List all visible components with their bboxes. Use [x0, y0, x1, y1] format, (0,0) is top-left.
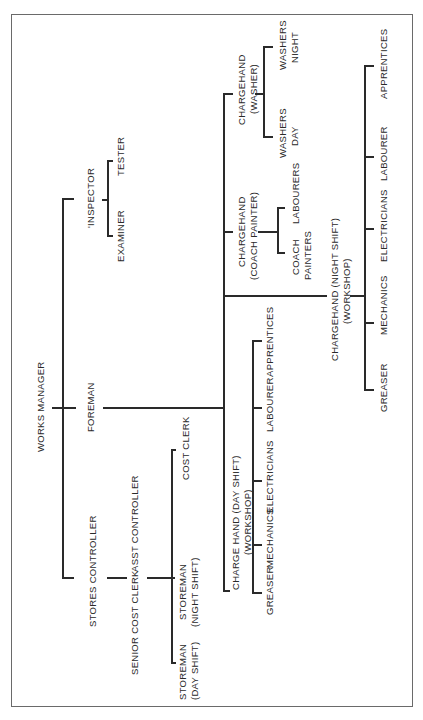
connector-line [252, 340, 262, 342]
connector-line [62, 198, 74, 200]
storeman-day-label: STOREMAN [177, 644, 188, 700]
connector-line [107, 160, 109, 236]
connector-line [263, 46, 273, 48]
connector-line [171, 662, 176, 664]
day-apprentices-label: APPRENTICES [264, 307, 275, 377]
day-greaser-label: GREASER [264, 566, 275, 615]
connector-line [350, 295, 365, 297]
connector-line [258, 231, 278, 233]
connector-line [223, 231, 233, 233]
tester-label: TESTER [115, 137, 126, 176]
connector-line [107, 235, 113, 237]
storeman-night-shift-label: (NIGHT SHIFT) [189, 557, 200, 627]
connector-line [364, 228, 374, 230]
day-mechanics-label: MECHANICS [264, 508, 275, 568]
coach-painters-label: COACH [290, 239, 301, 275]
connector-line [103, 407, 224, 409]
connector-line [277, 252, 285, 254]
chargehand-washer-label: CHARGEHAND [236, 54, 247, 125]
connector-line [52, 407, 76, 409]
connector-line [223, 93, 233, 95]
cost-clerk-label: COST CLERK [180, 416, 191, 480]
connector-line [263, 136, 273, 138]
washers-day-label: WASHERS [277, 108, 288, 158]
connector-line [107, 577, 127, 579]
chargehand-night-workshop-label: (WORKSHOP) [341, 258, 352, 324]
connector-line [252, 340, 254, 593]
connector-line [364, 322, 374, 324]
washers-day-2-label: DAY [289, 126, 300, 146]
night-mechanics-label: MECHANICS [378, 275, 389, 335]
examiner-label: EXAMINER [115, 210, 126, 262]
works-manager-label: WORKS MANAGER [35, 362, 46, 452]
storeman-day-shift-label: (DAY SHIFT) [189, 642, 200, 700]
day-labourer-label: LABOURER [264, 377, 275, 432]
night-labourer-label: LABOURER [378, 126, 389, 181]
foreman-label: FOREMAN [85, 382, 96, 432]
asst-controller-label: ASST CONTROLLER [129, 475, 140, 572]
connector-line [364, 65, 374, 67]
connector-line [252, 407, 262, 409]
night-greaser-label: GREASER [378, 363, 389, 412]
chargehand-day-workshop-label: (WORKSHOP) [242, 489, 253, 555]
coach-painters-2-label: PAINTERS [302, 231, 313, 280]
chargehand-coach-painter-label: (COACH PAINTER) [248, 192, 259, 280]
connector-line [223, 93, 225, 591]
night-apprentices-label: APPRENTICES [378, 29, 389, 99]
stores-controller-label: STORES CONTROLLER [87, 515, 98, 627]
senior-cost-clerk-label: SENIOR COST CLERK [129, 570, 140, 675]
inspector-label: 'INSPECTOR [85, 168, 96, 228]
connector-line [252, 544, 262, 546]
washers-night-2-label: NIGHT [289, 32, 300, 63]
chargehand-night-label: CHARGEHAND (NIGHT SHIFT) [329, 218, 340, 361]
connector-line [223, 295, 327, 297]
connector-line [277, 207, 285, 209]
connector-line [263, 46, 265, 137]
storeman-night-label: STOREMAN [177, 564, 188, 620]
chargehand-washer-2-label: (WASHER) [248, 64, 259, 114]
coach-labourers-label: LABOURERS [290, 163, 301, 224]
chargehand-coach-label: CHARGEHAND [236, 196, 247, 267]
connector-line [107, 160, 113, 162]
connector-line [171, 449, 173, 663]
connector-line [223, 590, 230, 592]
connector-line [252, 480, 262, 482]
connector-line [252, 592, 262, 594]
connector-line [364, 389, 374, 391]
connector-line [62, 198, 64, 578]
washers-night-label: WASHERS [277, 20, 288, 70]
connector-line [364, 156, 374, 158]
chargehand-day-label: CHARGE HAND (DAY SHIFT) [230, 455, 241, 590]
day-electricians-label: ELECTRICIANS [264, 440, 275, 513]
chart-frame [11, 14, 413, 707]
connector-line [277, 207, 279, 253]
connector-line [171, 449, 176, 451]
connector-line [62, 577, 74, 579]
night-electricians-label: ELECTRICIANS [378, 189, 389, 262]
